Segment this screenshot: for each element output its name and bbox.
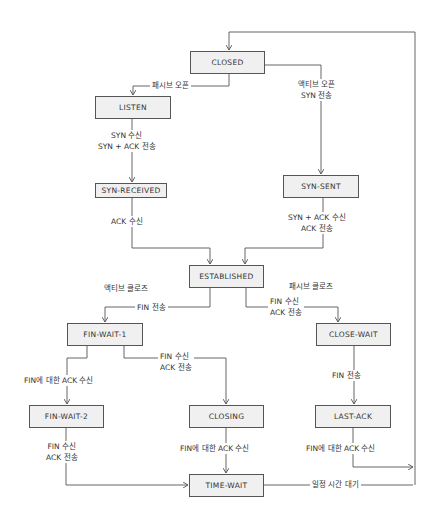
- label-timewait-to-closed: 일정 시간 대기: [310, 479, 361, 490]
- state-closed: CLOSED: [190, 51, 265, 74]
- state-close-wait: CLOSE-WAIT: [316, 323, 391, 346]
- group-label-passive-close: 패시브 클로즈: [287, 281, 335, 292]
- label-finwait1-to-closing: FIN 수신 ACK 전송: [158, 351, 194, 373]
- tcp-state-diagram: CLOSED LISTEN SYN-RECEIVED SYN-SENT ESTA…: [0, 0, 436, 523]
- state-fin-wait-1: FIN-WAIT-1: [67, 323, 143, 346]
- group-label-active-close: 액티브 클로즈: [102, 283, 150, 294]
- label-active-open: 액티브 오픈 SYN 전송: [296, 79, 337, 101]
- state-established: ESTABLISHED: [189, 265, 264, 288]
- label-line: ACK 전송: [160, 362, 192, 373]
- label-line: SYN 전송: [298, 90, 335, 101]
- label-passive-open: 패시브 오픈: [150, 80, 191, 91]
- label-line: FIN 수신: [270, 296, 302, 307]
- state-time-wait: TIME-WAIT: [189, 474, 264, 497]
- label-line: SYN 수신: [98, 130, 156, 141]
- state-syn-received: SYN-RECEIVED: [95, 183, 167, 198]
- label-line: ACK 전송: [46, 452, 78, 463]
- state-fin-wait-2: FIN-WAIT-2: [29, 405, 104, 428]
- label-fin-recv-ack-send: FIN 수신 ACK 전송: [268, 296, 304, 318]
- label-line: ACK 전송: [288, 223, 346, 234]
- label-listen-to-synrcvd: SYN 수신 SYN + ACK 전송: [96, 130, 158, 152]
- label-line: SYN + ACK 수신: [288, 212, 346, 223]
- label-line: FIN 수신: [46, 441, 78, 452]
- state-closing: CLOSING: [189, 405, 264, 428]
- label-lastack-to-closed: FIN에 대한 ACK 수신: [304, 443, 377, 454]
- label-line: SYN + ACK 전송: [98, 141, 156, 152]
- label-line: ACK 전송: [270, 307, 302, 318]
- state-syn-sent: SYN-SENT: [283, 175, 359, 198]
- label-synsent-to-established: SYN + ACK 수신 ACK 전송: [286, 212, 348, 234]
- label-fin-send: FIN 전송: [135, 302, 168, 313]
- label-closewait-to-lastack: FIN 전송: [330, 370, 363, 381]
- label-closing-to-timewait: FIN에 대한 ACK 수신: [178, 443, 251, 454]
- label-ack-received: ACK 수신: [109, 216, 145, 227]
- state-last-ack: LAST-ACK: [315, 405, 391, 428]
- label-finwait2-to-timewait: FIN 수신 ACK 전송: [44, 441, 80, 463]
- label-line: FIN 수신: [160, 351, 192, 362]
- state-listen: LISTEN: [95, 96, 171, 119]
- label-line: 액티브 오픈: [298, 79, 335, 90]
- label-finwait1-to-finwait2: FIN에 대한 ACK 수신: [22, 375, 95, 386]
